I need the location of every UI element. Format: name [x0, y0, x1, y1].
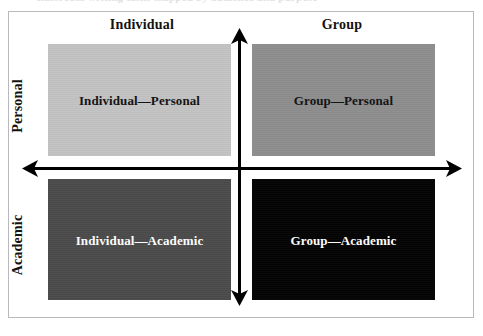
- figure-canvas: classroom writing tasks mapped by audien…: [0, 0, 483, 336]
- cropped-caption-sliver: classroom writing tasks mapped by audien…: [36, 0, 456, 3]
- row-header-personal: Personal: [10, 46, 26, 166]
- quadrant-label: Individual—Academic: [76, 233, 204, 249]
- quadrant-label: Individual—Personal: [79, 93, 200, 109]
- column-header-individual: Individual: [44, 17, 240, 33]
- quadrant-individual-personal: Individual—Personal: [48, 44, 231, 156]
- quadrant-label: Group—Personal: [294, 93, 393, 109]
- horizontal-axis-arrow: [22, 167, 462, 170]
- quadrant-group-academic: Group—Academic: [252, 179, 435, 300]
- row-header-academic: Academic: [10, 185, 26, 305]
- quadrant-individual-academic: Individual—Academic: [48, 179, 231, 300]
- quadrant-group-personal: Group—Personal: [252, 44, 435, 156]
- vertical-axis-arrow: [238, 28, 241, 306]
- column-header-group: Group: [244, 17, 440, 33]
- quadrant-label: Group—Academic: [291, 233, 397, 249]
